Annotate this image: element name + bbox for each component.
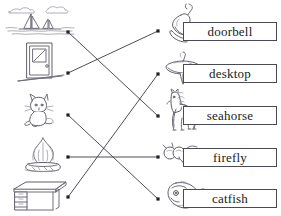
label-box-catfish[interactable]: catfish	[183, 189, 277, 208]
fire-icon	[16, 136, 70, 176]
connection-line[interactable]	[68, 32, 158, 116]
label-text: doorbell	[208, 25, 253, 38]
matching-worksheet: doorbell desktop seahorse firefly catfis…	[0, 0, 281, 216]
connection-line[interactable]	[68, 115, 158, 199]
label-text: catfish	[212, 192, 248, 205]
label-box-firefly[interactable]: firefly	[183, 148, 277, 167]
connector-dot-left-cat[interactable]	[66, 113, 69, 116]
sea-with-sailboats-icon	[4, 2, 76, 38]
label-box-doorbell[interactable]: doorbell	[183, 22, 277, 41]
door-icon	[14, 40, 68, 84]
label-box-desktop[interactable]: desktop	[183, 64, 277, 83]
desk-icon	[10, 177, 72, 214]
label-text: firefly	[213, 151, 247, 164]
connection-line[interactable]	[68, 74, 158, 197]
connector-dot-right-doorbell[interactable]	[156, 29, 159, 32]
cat-icon	[16, 92, 64, 130]
label-box-seahorse[interactable]: seahorse	[183, 106, 277, 125]
connection-line[interactable]	[68, 31, 158, 73]
label-text: desktop	[209, 67, 251, 80]
label-text: seahorse	[207, 109, 253, 122]
